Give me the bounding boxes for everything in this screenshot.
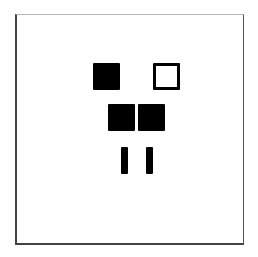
vertical-bar-left [121, 147, 128, 174]
filled-square-middle-left [108, 104, 135, 131]
vertical-bar-right [146, 147, 153, 174]
filled-square-top-left [93, 63, 120, 90]
outline-square-top-right [153, 63, 180, 90]
filled-square-middle-right [138, 104, 165, 131]
